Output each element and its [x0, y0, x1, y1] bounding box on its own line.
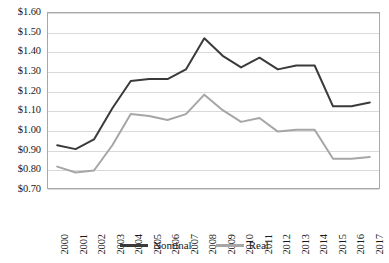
series-line-real	[57, 95, 370, 173]
y-tick-label: $1.60	[18, 7, 41, 17]
y-tick-label: $1.00	[18, 125, 41, 135]
legend-entry-real[interactable]: Real	[216, 240, 269, 251]
legend-line-icon	[216, 244, 244, 247]
y-tick-label: $1.10	[18, 105, 41, 115]
legend-label: Nominal	[153, 240, 192, 251]
y-tick-label: $1.30	[18, 66, 41, 76]
y-axis: $1.60$1.50$1.40$1.30$1.20$1.10$1.00$0.90…	[0, 0, 45, 201]
y-tick-label: $0.70	[18, 184, 41, 194]
y-tick-label: $0.90	[18, 145, 41, 155]
legend-label: Real	[249, 240, 269, 251]
legend-entry-nominal[interactable]: Nominal	[120, 240, 192, 251]
line-chart-figure: $1.60$1.50$1.40$1.30$1.20$1.10$1.00$0.90…	[0, 0, 389, 263]
chart-legend: NominalReal	[0, 240, 389, 251]
series-line-nominal	[57, 38, 370, 149]
x-axis: 2000200120022003200420052006200720082009…	[47, 190, 380, 236]
plot-area	[47, 12, 380, 189]
y-tick-label: $1.20	[18, 86, 41, 96]
legend-line-icon	[120, 244, 148, 247]
y-tick-label: $1.40	[18, 46, 41, 56]
series-container	[48, 13, 379, 188]
y-tick-label: $0.80	[18, 164, 41, 174]
y-tick-label: $1.50	[18, 27, 41, 37]
